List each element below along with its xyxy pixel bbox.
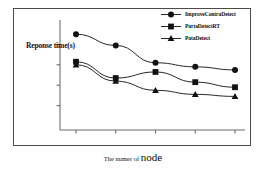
x-axis-label-prefix: The numer of — [104, 155, 141, 162]
legend-item-label: PartaDetectRT — [185, 24, 220, 30]
figure-container: Reponse time(s) The numer of node Improv… — [0, 0, 266, 178]
legend-item: ImproveContraDetect — [160, 9, 250, 20]
x-axis-label: The numer of node — [0, 148, 266, 164]
data-point-circle — [192, 64, 198, 70]
data-point-square — [168, 24, 174, 30]
square-marker — [160, 21, 182, 32]
series-triangle — [73, 61, 239, 99]
legend-item: PartaDetectRT — [160, 21, 250, 32]
data-point-square — [192, 79, 198, 85]
legend-item-label: ImproveContraDetect — [185, 12, 236, 18]
legend-item: PataDetect — [160, 33, 250, 44]
x-axis-label-emphasis: node — [141, 151, 162, 163]
data-point-square — [153, 69, 159, 75]
data-point-circle — [168, 12, 174, 18]
data-point-circle — [153, 60, 159, 66]
legend-item-label: PataDetect — [185, 36, 210, 42]
data-point-circle — [113, 42, 119, 48]
data-point-circle — [73, 31, 79, 37]
chart-legend: ImproveContraDetectPartaDetectRTPataDete… — [160, 9, 250, 45]
y-axis-label: Reponse time(s) — [26, 42, 75, 50]
data-point-square — [232, 84, 238, 90]
data-point-circle — [232, 67, 238, 73]
circle-marker — [160, 9, 182, 20]
triangle-marker — [160, 33, 182, 44]
